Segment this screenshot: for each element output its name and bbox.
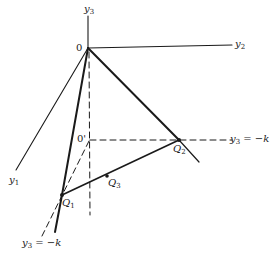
y1-axis-label: y1 — [9, 175, 19, 187]
origin-label: 0 — [76, 43, 82, 53]
line-origin-q2 — [88, 48, 179, 140]
line-origin-q1-extension — [55, 195, 62, 232]
q1-label: Q1 — [62, 198, 75, 210]
y2-axis — [88, 45, 232, 48]
q2-label: Q2 — [173, 144, 186, 156]
plane-label-bottom: y3 = −k — [22, 238, 61, 250]
plane-label-right: y3 = −k — [230, 134, 269, 146]
diagram-canvas — [0, 0, 270, 253]
origin-prime-label: 0' — [77, 134, 86, 144]
dashed-vertical — [89, 52, 90, 215]
y2-axis-label: y2 — [235, 39, 245, 51]
q3-label: Q3 — [108, 178, 121, 190]
q2-point — [177, 138, 181, 142]
y3-axis-label: y3 — [84, 4, 94, 16]
dashed-diagonal — [42, 141, 89, 236]
